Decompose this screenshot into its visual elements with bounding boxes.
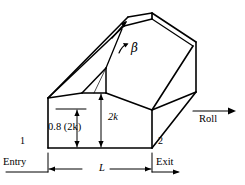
block-long-slant-face-edge <box>152 46 193 110</box>
length-arrow-left <box>49 167 55 172</box>
full-height-label: 2k <box>108 112 118 123</box>
exit-direction-arrow <box>173 169 180 174</box>
unused-guide-5 <box>128 17 196 42</box>
length-arrow-right <box>145 167 151 172</box>
block-top-rear-ridge-inner <box>152 19 193 46</box>
unused-guide-8 <box>124 26 152 110</box>
partial-height-arrow-up <box>74 110 79 116</box>
block-top-rear-ridge <box>152 13 196 42</box>
entry-point-number: 1 <box>20 136 25 146</box>
deformation-triangle-inner-line <box>94 68 106 93</box>
partial-height-label-text: 0.8 (2k) <box>48 121 81 132</box>
partial-height-arrow-down <box>74 141 79 147</box>
exit-point-number: 2 <box>158 136 163 146</box>
shear-angle-label: β <box>131 42 138 54</box>
ridge-apex-edge-lower <box>124 19 152 26</box>
length-dimension-label: L <box>99 163 105 174</box>
exit-label: Exit <box>156 157 174 168</box>
roll-label: Roll <box>199 114 217 125</box>
deformation-triangle-hypotenuse <box>82 68 106 93</box>
full-height-arrow-down <box>98 141 103 147</box>
diagram-linework <box>0 0 245 185</box>
ridge-apex-edge <box>128 13 152 17</box>
roll-direction-arrow <box>228 108 236 115</box>
front-face-upper-right-slope <box>106 93 152 110</box>
rolling-deformation-diagram: 1 2 Entry Exit Roll L 2k 0.8 (2k) β <box>0 0 245 185</box>
entry-label: Entry <box>3 157 26 168</box>
full-height-label-text: 2k <box>108 111 118 122</box>
partial-height-label: 0.8 (2k) <box>48 122 81 133</box>
full-height-arrow-up <box>98 94 103 100</box>
unused-guide <box>124 26 152 110</box>
